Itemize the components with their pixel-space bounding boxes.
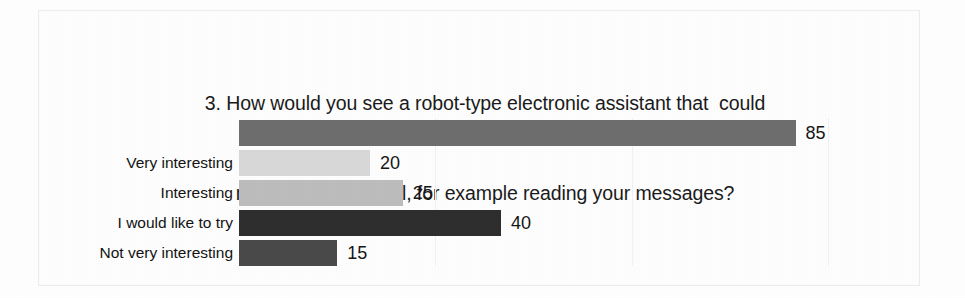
bar-row: 40 (239, 210, 920, 236)
category-label: I would like to try (118, 210, 233, 236)
bar-value-label: 85 (806, 123, 826, 144)
bar (239, 180, 403, 206)
category-label: Very interesting (126, 150, 233, 176)
category-label: Not very interesting (99, 240, 233, 266)
bar-value-label: 20 (380, 153, 400, 174)
bar-row: 15 (239, 240, 920, 266)
bar-value-label: 15 (347, 243, 367, 264)
bar-row: 20 (239, 150, 920, 176)
chart-figure: 3. How would you see a robot-type electr… (0, 0, 965, 298)
category-label: Interesting (161, 180, 233, 206)
bar (239, 210, 501, 236)
plot-area: 8520254015 (239, 118, 920, 266)
chart-title-line-1: 3. How would you see a robot-type electr… (90, 88, 880, 118)
bar (239, 150, 370, 176)
bar-value-label: 25 (413, 183, 433, 204)
bar-row: 85 (239, 120, 920, 146)
bar-value-label: 40 (511, 213, 531, 234)
bar (239, 120, 796, 146)
category-axis-labels: Very interestingInterestingI would like … (40, 118, 233, 266)
bar (239, 240, 337, 266)
bar-row: 25 (239, 180, 920, 206)
